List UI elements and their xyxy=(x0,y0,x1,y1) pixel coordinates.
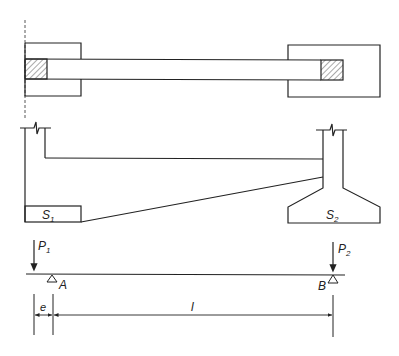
right-column-break-icon xyxy=(316,124,347,136)
support-b-icon xyxy=(328,275,338,283)
dimension-e-label: e xyxy=(40,301,46,313)
beam-bottom-edge xyxy=(81,177,323,222)
strap-beam-top-edge xyxy=(25,59,321,60)
load-p2-label: P2 xyxy=(338,242,351,258)
right-column-plan xyxy=(321,60,343,80)
beam-line xyxy=(26,274,345,275)
plan-view xyxy=(25,43,380,97)
beam-top-edge xyxy=(45,158,323,159)
load-p1-label: P1 xyxy=(38,239,50,255)
support-a-icon xyxy=(47,275,57,282)
left-footing-label: S1 xyxy=(42,208,54,224)
strap-footing-diagram: S1 S2 P1 P2 A B e l xyxy=(0,0,399,356)
support-a-label: A xyxy=(58,278,67,292)
beam-model xyxy=(26,240,345,337)
dimension-l-label: l xyxy=(191,300,194,314)
support-b-label: B xyxy=(318,279,326,293)
right-footing-label: S2 xyxy=(326,208,339,224)
left-column-plan xyxy=(25,59,47,79)
strap-beam-bottom-edge xyxy=(25,79,321,80)
